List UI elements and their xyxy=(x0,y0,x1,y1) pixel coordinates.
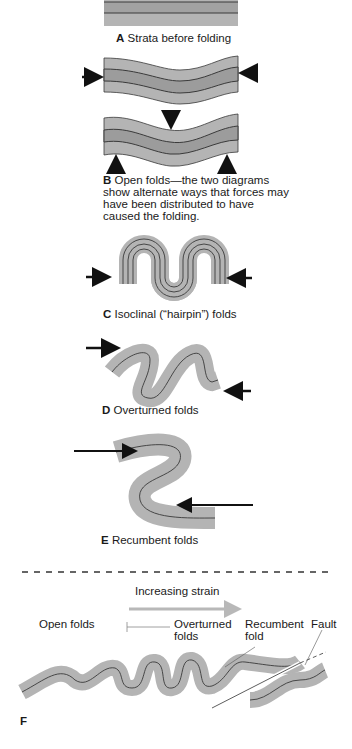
label-increasing-strain: Increasing strain xyxy=(135,585,219,597)
panel-letter-a: A xyxy=(116,32,124,44)
caption-b: B Open folds—the two diagrams show alter… xyxy=(103,174,343,222)
panel-letter-f: F xyxy=(20,715,27,727)
panel-letter-b: B xyxy=(103,174,111,186)
caption-d: D Overturned folds xyxy=(102,404,199,416)
panel-letter-d: D xyxy=(102,404,110,416)
panel-a-strata xyxy=(104,0,238,26)
caption-a: A Strata before folding xyxy=(116,32,231,44)
panel-b-open-fold-1 xyxy=(82,56,256,104)
label-open-folds: Open folds xyxy=(39,618,95,630)
panel-letter-e: E xyxy=(101,534,109,546)
label-overturned-folds: Overturned folds xyxy=(174,618,232,642)
label-fault: Fault xyxy=(311,618,337,630)
caption-c: C Isoclinal (“hairpin”) folds xyxy=(103,308,237,320)
caption-e: E Recumbent folds xyxy=(101,534,198,546)
panel-b-open-fold-2 xyxy=(104,114,238,168)
fault-leader-line xyxy=(305,630,322,665)
panel-e-recumbent-folds xyxy=(74,445,253,518)
panel-c-isoclinal-folds xyxy=(86,239,252,297)
panel-d-overturned-folds xyxy=(86,348,251,398)
panel-letter-c: C xyxy=(103,308,111,320)
label-recumbent-fold: Recumbent fold xyxy=(245,618,304,642)
